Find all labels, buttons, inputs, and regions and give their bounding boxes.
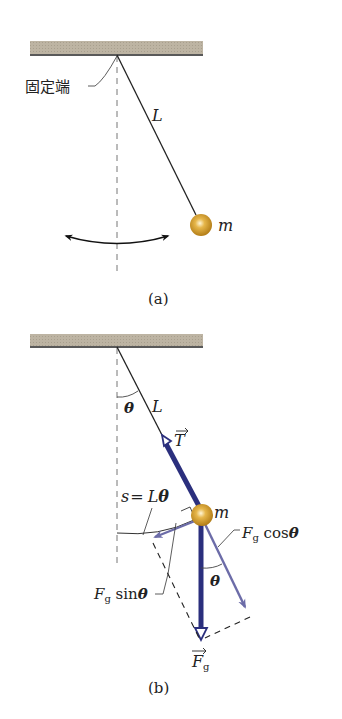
angle-label-bottom: θ	[210, 572, 220, 590]
tension-vector	[165, 442, 200, 508]
arc-label-leader	[143, 508, 152, 535]
string-length-label-b: L	[151, 397, 163, 416]
pendulum-diagram: 固定端 L m (a) θ L	[0, 0, 342, 719]
string-length-label-a: L	[151, 106, 163, 125]
fg-cos-leader	[218, 530, 240, 547]
parallelogram-dash-right	[205, 617, 250, 638]
fg-cos-vector	[204, 522, 245, 607]
figure-a	[30, 41, 212, 275]
mass-label-a: m	[218, 216, 233, 235]
tension-arrowhead-icon	[162, 435, 171, 446]
parallelogram-dash-left	[153, 543, 199, 638]
bob-b	[191, 504, 213, 526]
mass-label-b: m	[214, 503, 229, 522]
arc-length-label: s=Lθ	[121, 487, 169, 506]
bob-a	[190, 214, 212, 236]
caption-b: (b)	[148, 679, 169, 697]
string-b	[117, 347, 163, 437]
angle-arc-top	[117, 391, 138, 397]
tension-label: T	[174, 431, 186, 450]
angle-arc-bottom	[201, 564, 222, 568]
ceiling-b	[30, 334, 203, 346]
fg-sin-label: Fg sinθ	[93, 585, 148, 604]
ceiling-a	[30, 41, 203, 54]
gravity-label: Fg	[191, 652, 210, 672]
pivot-leader-a	[88, 56, 117, 86]
fg-cos-label: Fg cosθ	[241, 524, 299, 543]
pivot-label-a: 固定端	[25, 78, 70, 96]
angle-label-top: θ	[124, 399, 134, 417]
caption-a: (a)	[148, 290, 169, 308]
string-a	[117, 55, 196, 215]
